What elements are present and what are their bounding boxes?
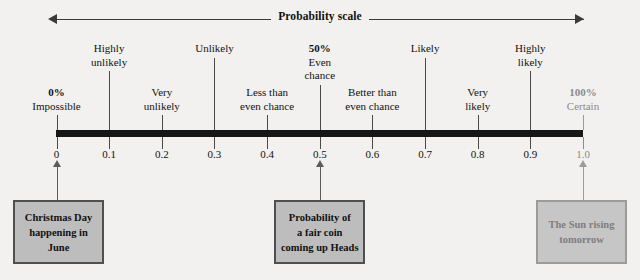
descriptor-line: Less than [215, 86, 319, 100]
descriptor-leader-line [267, 115, 268, 130]
descriptor-line: Impossible [5, 100, 109, 114]
probability-descriptor: Verylikely [426, 86, 530, 113]
example-arrowhead-icon [53, 160, 61, 167]
example-connector-line [57, 167, 58, 200]
probability-descriptor: Veryunlikely [110, 86, 214, 113]
probability-descriptor: Less thaneven chance [215, 86, 319, 113]
descriptor-line: unlikely [110, 100, 214, 114]
probability-scale-diagram: Probability scale 0%ImpossibleHighlyunli… [0, 0, 640, 280]
probability-descriptor: 50%Evenchance [268, 42, 372, 83]
descriptor-percent: 50% [268, 42, 372, 56]
descriptor-leader-line [478, 115, 479, 130]
descriptor-line: Better than [320, 86, 424, 100]
example-callout-line: Christmas Day [25, 210, 92, 225]
descriptor-line: Likely [373, 42, 477, 56]
example-callout-line: Probability of [289, 210, 351, 225]
axis-tick-label: 1.0 [563, 148, 603, 160]
descriptor-line: chance [268, 69, 372, 83]
probability-descriptor: Likely [373, 42, 477, 56]
example-arrowhead-icon [579, 160, 587, 167]
descriptor-line: even chance [215, 100, 319, 114]
descriptor-percent: 100% [531, 86, 635, 100]
axis-tick-label: 0.5 [300, 148, 340, 160]
axis-tick-label: 0.1 [89, 148, 129, 160]
axis-tick-label: 0 [37, 148, 77, 160]
axis-tick-label: 0.4 [247, 148, 287, 160]
axis-tick-label: 0.6 [352, 148, 392, 160]
diagram-title-text: Probability scale [271, 10, 369, 22]
axis-tick-label: 0.3 [194, 148, 234, 160]
descriptor-line: likely [478, 56, 582, 70]
descriptor-line: Highly [478, 42, 582, 56]
descriptor-line: even chance [320, 100, 424, 114]
example-connector-line [583, 167, 584, 200]
descriptor-leader-line [57, 115, 58, 130]
descriptor-line: likely [426, 100, 530, 114]
example-connector-line [320, 167, 321, 200]
example-callout-box: Probability ofa fair coincoming up Heads [274, 200, 365, 264]
probability-descriptor: 100%Certain [531, 86, 635, 113]
example-callout-box: The Sun risingtomorrow [536, 200, 627, 264]
descriptor-leader-line [583, 115, 584, 130]
example-callout-line: tomorrow [559, 232, 604, 247]
example-callout-line: coming up Heads [281, 240, 359, 255]
example-callout-line: The Sun rising [549, 217, 615, 232]
descriptor-leader-line [372, 115, 373, 130]
probability-scale-bar [56, 130, 583, 137]
descriptor-line: Very [426, 86, 530, 100]
descriptor-line: Highly [57, 42, 161, 56]
example-callout-line: a fair coin [297, 225, 342, 240]
example-callout-line: happening in [29, 225, 88, 240]
descriptor-line: Unlikely [162, 42, 266, 56]
example-callout-box: Christmas Dayhappening inJune [13, 200, 104, 264]
descriptor-line: Even [268, 56, 372, 70]
probability-descriptor: Better thaneven chance [320, 86, 424, 113]
descriptor-leader-line [162, 115, 163, 130]
probability-descriptor: Unlikely [162, 42, 266, 56]
example-arrowhead-icon [316, 160, 324, 167]
axis-tick-label: 0.8 [458, 148, 498, 160]
axis-tick-label: 0.2 [142, 148, 182, 160]
probability-descriptor: Highlylikely [478, 42, 582, 69]
descriptor-line: unlikely [57, 56, 161, 70]
axis-tick-label: 0.9 [510, 148, 550, 160]
probability-descriptor: 0%Impossible [5, 86, 109, 113]
axis-tick-label: 0.7 [405, 148, 445, 160]
example-callout-line: June [48, 240, 70, 255]
descriptor-percent: 0% [5, 86, 109, 100]
diagram-title: Probability scale [0, 10, 640, 22]
descriptor-line: Certain [531, 100, 635, 114]
probability-descriptor: Highlyunlikely [57, 42, 161, 69]
descriptor-line: Very [110, 86, 214, 100]
